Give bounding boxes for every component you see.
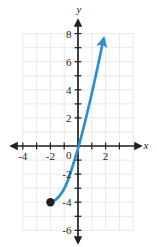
graph-canvas: -4 -2 2 8 6 4 2 -2 -4 -6 0 x y [0,0,157,247]
y-tick-label-neg4: -4 [62,196,72,208]
coordinate-plane-graph: -4 -2 2 8 6 4 2 -2 -4 -6 0 x y [0,0,157,247]
x-axis-label: x [143,139,149,151]
y-tick-label-6: 6 [66,56,72,68]
x-tick-label-2: 2 [103,150,109,162]
plot-curve [50,42,103,203]
y-axis-label: y [76,3,82,15]
endpoint-dot [46,198,54,206]
x-tick-label-neg4: -4 [18,150,28,162]
y-tick-label-8: 8 [66,28,72,40]
y-tick-label-4: 4 [66,84,72,96]
y-tick-label-2: 2 [66,112,72,124]
origin-label: 0 [66,149,72,161]
x-axis [11,143,141,150]
x-tick-label-neg2: -2 [46,150,55,162]
y-tick-label-neg6: -6 [62,224,72,236]
y-tick-label-neg2: -2 [62,168,71,180]
